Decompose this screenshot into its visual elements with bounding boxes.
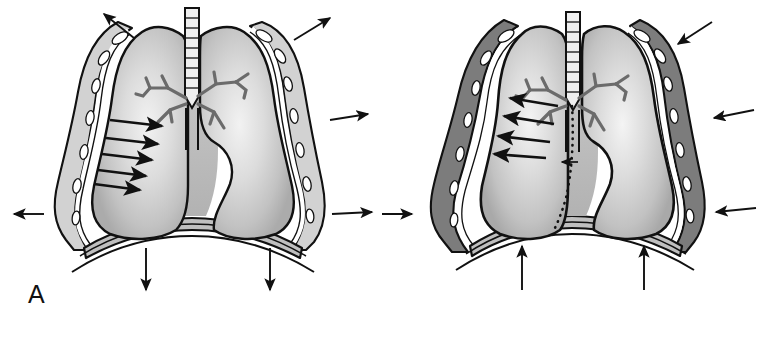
panel-b-illustration (382, 0, 765, 338)
arrow-inward-lower-right (716, 208, 756, 212)
arrow-outward-lower-right (332, 212, 372, 214)
panel-b-collapse-pneumothorax: B (382, 0, 765, 338)
arrow-inward-upper-right (678, 22, 712, 44)
diaphragm-arrows-a (146, 248, 270, 290)
panel-a-normal-recoil: A (0, 0, 383, 338)
arrow-inward-mid-right (714, 110, 754, 118)
panel-a-illustration (0, 0, 383, 338)
diaphragm-arrows-b (522, 246, 644, 290)
figure-container: A (0, 0, 765, 338)
arrow-outward-upper-right (294, 18, 330, 40)
panel-label-a: A (28, 282, 45, 307)
arrow-outward-mid-right (330, 114, 368, 120)
